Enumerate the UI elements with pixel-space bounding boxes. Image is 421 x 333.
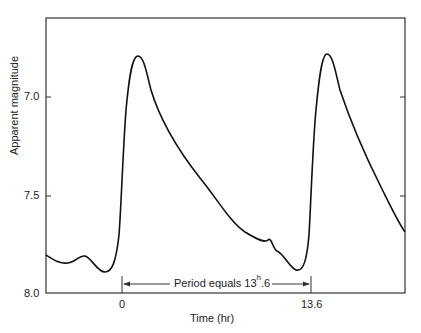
period-decimal: .6 bbox=[261, 277, 270, 289]
x-axis-label: Time (hr) bbox=[190, 312, 234, 324]
y-tick-label-7.5: 7.5 bbox=[24, 189, 39, 201]
arrowhead-right-icon bbox=[303, 282, 310, 287]
y-axis-label: Apparent magnitude bbox=[8, 56, 20, 155]
period-annotation: Period equals 13h.6 bbox=[172, 275, 272, 289]
arrowhead-left-icon bbox=[123, 282, 130, 287]
light-curve-line bbox=[46, 54, 405, 272]
x-tick-label-13.6: 13.6 bbox=[301, 298, 322, 310]
x-tick-label-0: 0 bbox=[119, 298, 125, 310]
period-hour-superscript: h bbox=[257, 273, 261, 282]
plot-frame bbox=[46, 18, 405, 293]
y-tick-label-8.0: 8.0 bbox=[24, 287, 39, 299]
y-tick-label-7.0: 7.0 bbox=[24, 90, 39, 102]
period-text: Period equals 13 bbox=[174, 277, 257, 289]
